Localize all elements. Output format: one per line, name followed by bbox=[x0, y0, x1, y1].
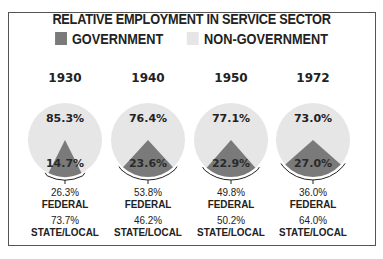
pie-year: 1972 bbox=[296, 71, 329, 85]
federal-value: 26.3% bbox=[51, 187, 79, 199]
state-local-value: 50.2% bbox=[217, 215, 245, 227]
pie-year: 1930 bbox=[48, 71, 81, 85]
state-local-label: STATE/LOCAL bbox=[279, 227, 347, 239]
state-local-value: 46.2% bbox=[134, 215, 162, 227]
pie-non-government-label: 77.1% bbox=[212, 112, 250, 125]
federal-value: 53.8% bbox=[134, 187, 162, 199]
state-local-value: 73.7% bbox=[51, 215, 79, 227]
pie-government-label: 23.6% bbox=[129, 157, 167, 170]
state-local-label: STATE/LOCAL bbox=[114, 227, 182, 239]
pie-government-label: 22.9% bbox=[212, 157, 250, 170]
state-local-value: 64.0% bbox=[299, 215, 327, 227]
pie-non-government-label: 85.3% bbox=[46, 112, 84, 125]
federal-label: FEDERAL bbox=[42, 199, 89, 211]
federal-value: 49.8% bbox=[217, 187, 245, 199]
federal-label: FEDERAL bbox=[125, 199, 172, 211]
state-local-label: STATE/LOCAL bbox=[31, 227, 99, 239]
pie-government-label: 27.0% bbox=[294, 157, 332, 170]
pie-non-government-label: 73.0% bbox=[294, 112, 332, 125]
federal-label: FEDERAL bbox=[208, 199, 255, 211]
state-local-label: STATE/LOCAL bbox=[197, 227, 265, 239]
pie-year: 1950 bbox=[214, 71, 247, 85]
federal-label: FEDERAL bbox=[290, 199, 337, 211]
pie-charts: 193085.3%14.7%26.3%FEDERAL73.7%STATE/LOC… bbox=[0, 0, 383, 259]
pie-year: 1940 bbox=[131, 71, 164, 85]
pie-government-label: 14.7% bbox=[46, 157, 84, 170]
pie-non-government-label: 76.4% bbox=[129, 112, 167, 125]
federal-value: 36.0% bbox=[299, 187, 327, 199]
